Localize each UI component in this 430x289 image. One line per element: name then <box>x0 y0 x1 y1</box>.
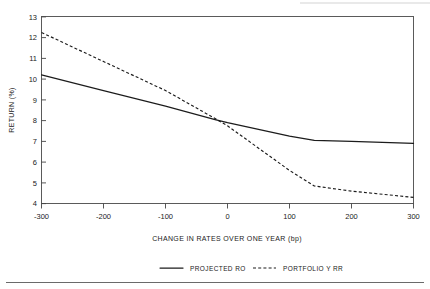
y-tick-label: 5 <box>33 179 37 188</box>
x-axis-title: CHANGE IN RATES OVER ONE YEAR (bp) <box>152 235 302 243</box>
y-axis-ticks <box>42 17 47 204</box>
x-tick-label: 300 <box>407 212 420 221</box>
legend-label-portfolio-y-rr: PORTFOLIO Y RR <box>283 265 343 272</box>
plot-frame <box>42 17 414 204</box>
y-tick-label: 9 <box>33 96 37 105</box>
x-tick-label: 0 <box>225 212 229 221</box>
y-tick-label: 7 <box>33 137 37 146</box>
chart-figure: 13 12 11 10 9 8 7 6 5 4 -300 -200 -100 0 <box>0 0 430 289</box>
y-axis-tick-labels: 13 12 11 10 9 8 7 6 5 4 <box>29 13 37 209</box>
line-chart: 13 12 11 10 9 8 7 6 5 4 -300 -200 -100 0 <box>0 0 430 289</box>
y-tick-label: 6 <box>33 158 37 167</box>
y-tick-label: 13 <box>29 13 37 22</box>
x-axis-ticks <box>42 204 414 209</box>
series-line-portfolio-y-rr <box>42 32 414 197</box>
x-tick-label: -200 <box>96 212 111 221</box>
x-tick-label: 100 <box>283 212 296 221</box>
y-tick-label: 11 <box>29 54 37 63</box>
x-tick-label: -300 <box>34 212 49 221</box>
x-tick-label: 200 <box>345 212 358 221</box>
y-tick-label: 12 <box>29 33 37 42</box>
y-tick-label: 8 <box>33 116 37 125</box>
x-tick-label: -100 <box>158 212 173 221</box>
y-tick-label: 4 <box>33 199 37 208</box>
x-axis-tick-labels: -300 -200 -100 0 100 200 300 <box>34 212 420 221</box>
chart-legend: PROJECTED RO PORTFOLIO Y RR <box>160 265 343 272</box>
legend-label-projected-ro: PROJECTED RO <box>190 265 246 272</box>
y-axis-title: RETURN (%) <box>8 87 16 133</box>
series-line-projected-ro <box>42 75 414 143</box>
y-tick-label: 10 <box>29 75 37 84</box>
